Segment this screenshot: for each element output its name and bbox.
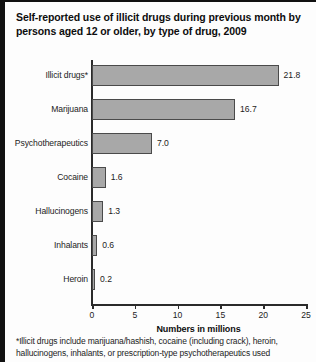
bar-row: Cocaine1.6 [5,167,316,188]
bar-category-label: Heroin [5,269,88,290]
bar-value-label: 0.6 [102,235,114,256]
x-axis-tick-label: 0 [90,310,95,320]
bar [92,235,97,256]
bar-category-label: Inhalants [5,235,88,256]
bar-category-label: Hallucinogens [5,201,88,222]
x-axis-tick [178,304,180,309]
bar [92,65,279,86]
bar-row: Inhalants0.6 [5,235,316,256]
bar-value-label: 7.0 [157,133,169,154]
bar [92,167,106,188]
bar [92,269,95,290]
bar [92,99,235,120]
bar-category-label: Psychotherapeutics [5,133,88,154]
bar-value-label: 1.3 [108,201,120,222]
bar-category-label: Illicit drugs* [5,65,88,86]
bar [92,133,152,154]
footnote: *Illicit drugs include marijuana/hashish… [16,336,316,359]
x-axis-tick-label: 15 [216,310,226,320]
bar-chart: Illicit drugs*21.8Marijuana16.7Psychothe… [5,60,316,310]
bar-category-label: Cocaine [5,167,88,188]
bar-value-label: 21.8 [284,65,301,86]
x-axis-tick-label: 20 [258,310,268,320]
x-axis-line [91,304,306,306]
page-title: Self-reported use of illicit drugs durin… [16,11,302,38]
x-axis-tick-label: 10 [173,310,183,320]
x-axis-tick-label: 5 [132,310,137,320]
bar-value-label: 1.6 [111,167,123,188]
bar-row: Heroin0.2 [5,269,316,290]
bar-row: Psychotherapeutics7.0 [5,133,316,154]
bar-row: Hallucinogens1.3 [5,201,316,222]
x-axis-tick [306,304,308,309]
x-axis-tick [263,304,265,309]
x-axis-tick [135,304,137,309]
x-axis-tick-label: 25 [301,310,311,320]
bar-row: Illicit drugs*21.8 [5,65,316,86]
bar [92,201,103,222]
figure-panel: Self-reported use of illicit drugs durin… [0,0,316,362]
bar-value-label: 16.7 [240,99,257,120]
bar-category-label: Marijuana [5,99,88,120]
bar-value-label: 0.2 [100,269,112,290]
x-axis-title: Numbers in millions [91,324,306,334]
x-axis-tick [92,304,94,309]
bar-row: Marijuana16.7 [5,99,316,120]
x-axis-tick [220,304,222,309]
